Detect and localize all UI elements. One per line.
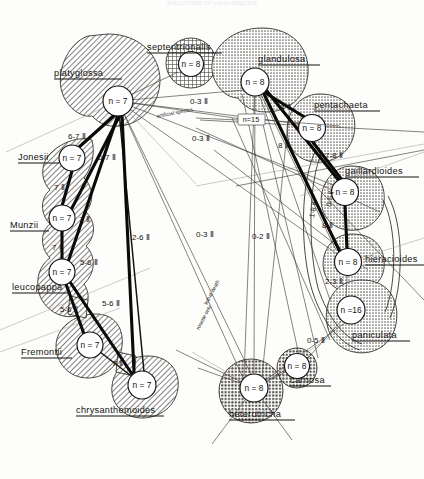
taxon-label-gaillardioides: gaillardioides [345, 166, 403, 176]
artificial-species-count: n=15 [243, 115, 259, 124]
rotated-label-group: 1-8 Ⅱ 0-5 Ⅱ lethal death rosette only [195, 190, 336, 330]
rotated-label-0: 1-8 Ⅱ [307, 201, 319, 218]
pair-label-13: 8 Ⅱ [322, 221, 333, 230]
pair-label-17: 0-3 Ⅱ [192, 134, 210, 143]
pair-label-8: 7 Ⅱ [112, 359, 123, 368]
rotated-label-rosette-only: rosette only [195, 304, 213, 331]
taxon-label-hieracioides: hieracioides [365, 254, 418, 264]
pair-label-12: 7-8 Ⅱ [325, 151, 343, 160]
pair-label-3: 7 Ⅱ [79, 215, 90, 224]
chrom-count-heterotricha: n = 8 [245, 383, 264, 393]
pair-label-11: 8 Ⅱ [278, 141, 289, 150]
pair-label-15: 0-5 Ⅱ [307, 336, 325, 345]
pair-label-5: 5-6 Ⅱ [80, 258, 98, 267]
taxon-label-jonesii: Jonesii [18, 152, 49, 162]
taxon-label-carnosa: carnosa [290, 375, 325, 385]
taxon-label-pentachaeta: pentachaeta [314, 100, 368, 110]
taxon-label-leucopappa: leucopappa [12, 282, 63, 292]
pair-label-14: 2-3 Ⅱ [325, 277, 343, 286]
taxon-label-chrysanthemoides: chrysanthemoides [76, 405, 155, 415]
pair-label-19: 0-2 Ⅱ [252, 232, 270, 241]
taxon-label-fremontii: Fremontii [21, 347, 62, 357]
taxon-label-paniculata: paniculata [352, 330, 397, 340]
pair-label-2: 7 Ⅱ [54, 183, 65, 192]
chrom-count-platyglossa: n = 7 [109, 96, 128, 106]
taxon-label-munzii: Munzii [10, 220, 38, 230]
pair-label-9: 2-6 Ⅱ [132, 233, 150, 242]
taxon-label-heterotricha: heterotricha [229, 409, 282, 419]
chrom-count-chrysanthemoides: n = 7 [133, 380, 152, 390]
pair-label-6: 5-6 Ⅱ [60, 305, 78, 314]
taxon-label-platyglossa: platyglossa [54, 68, 104, 78]
chrom-count-leucopappa: n = 7 [53, 267, 72, 277]
chrom-count-paniculata: n =16 [340, 305, 362, 315]
taxon-label-septentrionalis: septentrionalis [147, 42, 211, 52]
chrom-count-munzii: n = 7 [53, 213, 72, 223]
pair-label-0: 6-7 Ⅱ [68, 132, 86, 141]
diagram-canvas: EVOLUTION OF LAYIA SPECIES [0, 0, 424, 479]
figure-top-caption: EVOLUTION OF LAYIA SPECIES [167, 0, 257, 6]
pair-label-7: 5-6 Ⅱ [102, 299, 120, 308]
pair-label-18: 0-3 Ⅱ [196, 230, 214, 239]
chrom-count-glandulosa: n = 8 [246, 77, 265, 87]
cytogenetic-diagram: EVOLUTION OF LAYIA SPECIES [0, 0, 424, 479]
taxon-label-glandulosa: glandulosa [258, 54, 306, 64]
pair-label-4: 7 Ⅱ [52, 243, 63, 252]
chrom-count-fremontii: n = 7 [81, 340, 100, 350]
chrom-count-septentrionalis: n = 8 [182, 59, 201, 69]
chrom-count-jonesii: n = 7 [63, 153, 82, 163]
rotated-label-lethal-death: lethal death [203, 279, 221, 306]
chrom-count-hieracioides: n = 8 [339, 257, 358, 267]
pair-label-16: 0-3 Ⅱ [190, 97, 208, 106]
chrom-count-gaillardioides: n = 8 [336, 187, 355, 197]
pair-label-10: 8 Ⅱ [280, 103, 291, 112]
chrom-count-carnosa: n = 8 [288, 361, 307, 371]
pair-label-1: 6-7 Ⅱ [98, 153, 116, 162]
